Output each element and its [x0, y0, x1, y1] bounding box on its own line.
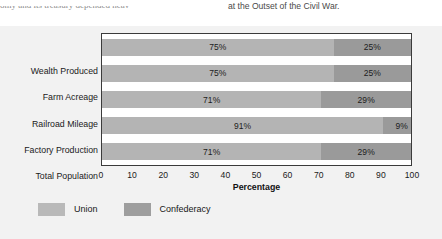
x-axis-tick-label: 80: [345, 170, 355, 180]
figure-panel: Wealth ProducedFarm AcreageRailroad Mile…: [0, 26, 442, 239]
x-axis-title: Percentage: [101, 182, 412, 192]
bar-value-label-union: 71%: [203, 147, 220, 157]
bar-segment-union: 75%: [102, 39, 334, 56]
x-axis-tick-label: 70: [314, 170, 324, 180]
legend-item: Union: [38, 203, 98, 216]
bar-segment-confederacy: 25%: [334, 65, 411, 82]
bar-rows: 75%25%75%25%71%29%91%9%71%29%: [102, 34, 411, 165]
x-axis-tick-label: 10: [127, 170, 137, 180]
bar-value-label-union: 75%: [209, 68, 226, 78]
bar-value-label-confederacy: 29%: [358, 95, 375, 105]
x-axis-ticks: 0102030405060708090100: [101, 167, 412, 183]
x-axis-tick-label: 100: [405, 170, 419, 180]
bar-segment-union: 75%: [102, 65, 334, 82]
bar-segment-union: 91%: [102, 117, 383, 134]
chart-legend: UnionConfederacy: [38, 199, 237, 219]
plot-area: 75%25%75%25%71%29%91%9%71%29%: [101, 33, 412, 166]
bar-value-label-confederacy: 25%: [364, 68, 381, 78]
category-label: Total Population: [2, 171, 98, 181]
x-axis-tick-label: 20: [158, 170, 168, 180]
x-axis-tick-label: 90: [376, 170, 386, 180]
bar-row: 75%25%: [102, 39, 411, 56]
x-axis-tick-label: 30: [190, 170, 200, 180]
bar-segment-confederacy: 29%: [321, 143, 411, 160]
category-axis-labels: Wealth ProducedFarm AcreageRailroad Mile…: [0, 59, 98, 192]
category-label: Farm Acreage: [2, 92, 98, 102]
x-axis-tick-label: 0: [99, 170, 104, 180]
bar-row: 75%25%: [102, 65, 411, 82]
bar-value-label-confederacy: 29%: [358, 147, 375, 157]
legend-label: Union: [74, 204, 98, 214]
x-axis-tick-label: 40: [221, 170, 231, 180]
bar-value-label-union: 75%: [209, 42, 226, 52]
x-axis-tick-label: 60: [283, 170, 293, 180]
bar-row: 91%9%: [102, 117, 411, 134]
bar-value-label-confederacy: 9%: [395, 121, 408, 131]
bar-row: 71%29%: [102, 91, 411, 108]
legend-item: Confederacy: [124, 203, 211, 216]
page-running-text: omy and its treasury depended heav at th…: [0, 0, 442, 18]
x-axis-tick-label: 50: [252, 170, 262, 180]
category-label: Wealth Produced: [2, 66, 98, 76]
bar-value-label-confederacy: 25%: [364, 42, 381, 52]
bar-segment-union: 71%: [102, 91, 321, 108]
bar-segment-union: 71%: [102, 143, 321, 160]
bar-row: 71%29%: [102, 143, 411, 160]
bar-segment-confederacy: 25%: [334, 39, 411, 56]
bar-segment-confederacy: 9%: [383, 117, 411, 134]
category-label: Factory Production: [2, 145, 98, 155]
figure-caption-fragment: at the Outset of the Civil War.: [228, 1, 442, 12]
bar-segment-confederacy: 29%: [321, 91, 411, 108]
bar-value-label-union: 91%: [234, 121, 251, 131]
page-text-fragment-left: omy and its treasury depended heav: [0, 0, 205, 11]
legend-swatch: [38, 203, 65, 216]
category-label: Railroad Mileage: [2, 119, 98, 129]
bar-value-label-union: 71%: [203, 95, 220, 105]
legend-swatch: [124, 203, 151, 216]
legend-label: Confederacy: [160, 204, 211, 214]
